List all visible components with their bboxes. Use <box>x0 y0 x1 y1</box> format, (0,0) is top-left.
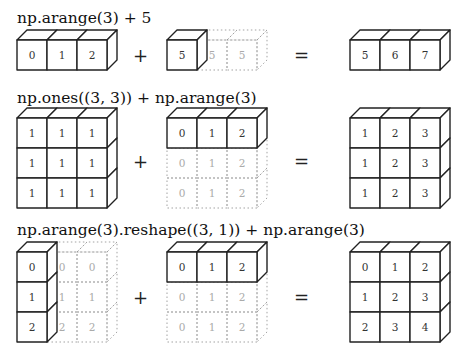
cell-value: 1 <box>209 157 216 169</box>
broadcasting-diagram: np.arange(3) + 5 012 + 555 = 567 np.ones… <box>0 0 460 359</box>
cell-value: 6 <box>392 49 399 61</box>
cell-value: 1 <box>89 187 96 199</box>
row-1: np.arange(3) + 5 012 + 555 = 567 <box>17 9 450 70</box>
cell-value: 1 <box>362 127 369 139</box>
array-cell: 7 <box>410 30 450 70</box>
cell-value: 0 <box>362 261 369 273</box>
cell-value: 5 <box>239 49 246 61</box>
array-cell: 1 <box>350 178 380 208</box>
array-cell: 1 <box>350 148 380 178</box>
array-cell: 1 <box>17 178 47 208</box>
cell-value: 2 <box>29 321 36 333</box>
row-2-right-array: 012012012 <box>167 108 267 208</box>
cell-value: 2 <box>392 157 399 169</box>
cell-value: 2 <box>239 321 246 333</box>
cell-value: 1 <box>362 157 369 169</box>
broadcast-cell: 0 <box>167 178 197 208</box>
cell-value: 0 <box>29 261 36 273</box>
cell-value: 2 <box>392 127 399 139</box>
cell-value: 2 <box>239 187 246 199</box>
plus-operator: + <box>133 287 148 308</box>
cell-value: 1 <box>209 291 216 303</box>
cell-value: 1 <box>89 291 96 303</box>
row-2-left-array: 111111111 <box>17 108 117 208</box>
array-cell: 2 <box>410 242 450 282</box>
broadcast-cell: 0 <box>167 312 197 342</box>
array-cell: 1 <box>17 148 47 178</box>
cell-value: 1 <box>59 127 66 139</box>
cell-value: 0 <box>29 49 36 61</box>
cell-value: 2 <box>239 127 246 139</box>
array-cell: 1 <box>47 148 77 178</box>
cell-value: 2 <box>362 321 369 333</box>
cell-value: 2 <box>392 187 399 199</box>
broadcast-cell: 1 <box>197 178 227 208</box>
broadcast-cell: 1 <box>197 282 227 312</box>
cell-value: 1 <box>29 291 36 303</box>
equals-operator: = <box>294 45 309 66</box>
cell-value: 2 <box>239 291 246 303</box>
cell-value: 1 <box>392 261 399 273</box>
cell-value: 1 <box>362 291 369 303</box>
cell-value: 0 <box>89 261 96 273</box>
cell-value: 2 <box>89 49 96 61</box>
array-cell: 2 <box>77 30 117 70</box>
broadcast-cell: 0 <box>167 148 197 178</box>
cell-value: 1 <box>29 127 36 139</box>
cell-value: 1 <box>59 157 66 169</box>
cell-value: 2 <box>422 261 429 273</box>
row-3: np.arange(3).reshape((3, 1)) + np.arange… <box>17 221 450 342</box>
plus-operator: + <box>133 45 148 66</box>
cell-value: 1 <box>209 187 216 199</box>
equals-operator: = <box>294 151 309 172</box>
equals-operator: = <box>294 287 309 308</box>
array-cell: 1 <box>47 178 77 208</box>
row-1-expression: np.arange(3) + 5 <box>17 9 151 27</box>
cell-value: 2 <box>392 291 399 303</box>
cell-value: 2 <box>89 321 96 333</box>
cell-value: 2 <box>239 261 246 273</box>
cell-value: 2 <box>59 321 66 333</box>
array-cell: 5 <box>167 30 207 70</box>
cell-value: 5 <box>179 49 186 61</box>
row-3-left-array: 001122012 <box>17 242 117 342</box>
cell-value: 0 <box>179 127 186 139</box>
plus-operator: + <box>133 151 148 172</box>
array-cell: 3 <box>380 312 410 342</box>
array-cell: 2 <box>227 108 267 148</box>
cell-value: 0 <box>179 187 186 199</box>
cell-value: 0 <box>179 291 186 303</box>
cell-value: 3 <box>422 127 429 139</box>
cell-value: 1 <box>29 157 36 169</box>
row-2-result-array: 123123123 <box>350 108 450 208</box>
cell-value: 4 <box>422 321 429 333</box>
row-1-left-array: 012 <box>17 30 117 70</box>
array-cell: 1 <box>77 108 117 148</box>
array-cell: 2 <box>380 282 410 312</box>
array-cell: 2 <box>350 312 380 342</box>
cell-value: 0 <box>179 321 186 333</box>
broadcast-cell: 1 <box>197 148 227 178</box>
row-1-result-array: 567 <box>350 30 450 70</box>
cell-value: 1 <box>209 127 216 139</box>
cell-value: 5 <box>209 49 216 61</box>
array-cell: 0 <box>17 242 57 282</box>
cell-value: 1 <box>89 157 96 169</box>
row-3-result-array: 012123234 <box>350 242 450 342</box>
array-cell: 3 <box>410 108 450 148</box>
cell-value: 3 <box>392 321 399 333</box>
array-cell: 2 <box>227 242 267 282</box>
row-3-expression: np.arange(3).reshape((3, 1)) + np.arange… <box>17 221 365 239</box>
broadcast-cell: 0 <box>77 242 117 282</box>
row-3-right-array: 012012012 <box>167 242 267 342</box>
cell-value: 3 <box>422 187 429 199</box>
cell-value: 1 <box>209 261 216 273</box>
cell-value: 5 <box>362 49 369 61</box>
broadcast-cell: 1 <box>197 312 227 342</box>
cell-value: 1 <box>59 49 66 61</box>
broadcast-cell: 5 <box>227 30 267 70</box>
broadcast-cell: 0 <box>167 282 197 312</box>
row-1-right-array: 555 <box>167 30 267 70</box>
cell-value: 1 <box>362 187 369 199</box>
cell-value: 2 <box>239 157 246 169</box>
